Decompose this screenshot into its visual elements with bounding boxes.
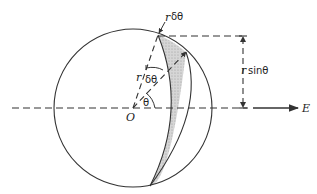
label-delta-theta: δθ xyxy=(145,74,157,85)
label-origin: O xyxy=(126,111,135,124)
label-r-radius: r xyxy=(136,71,142,84)
sphere-diagram: r δθ r sinθ r δθ θ O E xyxy=(0,0,317,194)
label-r-sin: r xyxy=(241,64,247,77)
height-arrow-bottom xyxy=(240,102,246,108)
label-theta: θ xyxy=(143,97,149,108)
label-field-e: E xyxy=(301,102,310,115)
delta-theta-arc xyxy=(146,67,163,70)
label-delta-theta-top: δθ xyxy=(171,11,183,22)
height-arrow-top xyxy=(240,36,246,42)
label-sin-theta: sinθ xyxy=(248,65,268,76)
shaded-band xyxy=(150,35,186,186)
